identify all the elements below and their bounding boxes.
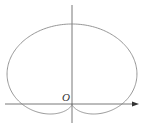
diagram-canvas <box>0 0 146 136</box>
origin-label: O <box>62 91 70 103</box>
axis-arrow-icon <box>132 102 139 107</box>
